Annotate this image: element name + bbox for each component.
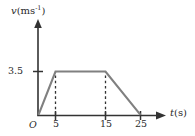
origin-label: O	[29, 120, 37, 130]
x-tick-label-15: 15	[96, 119, 116, 129]
y-axis-arrowhead	[34, 19, 42, 28]
velocity-curve	[39, 72, 141, 115]
x-axis-label-unit: (s)	[174, 107, 187, 118]
x-tick-label-25: 25	[131, 119, 151, 129]
y-tick-label-3point5: 3.5	[8, 66, 23, 76]
y-axis-label-unit: (ms	[17, 5, 36, 16]
velocity-time-graph-figure: v(ms-1) t(s) 3.5 O 5 15 25	[0, 0, 195, 136]
y-axis-label-unit-close: )	[42, 5, 46, 16]
chart-plot-area	[0, 0, 195, 136]
x-tick-label-5: 5	[46, 119, 66, 129]
x-axis-arrowhead	[156, 112, 166, 120]
y-axis-label: v(ms-1)	[11, 5, 45, 16]
x-axis-label: t(s)	[170, 108, 187, 118]
